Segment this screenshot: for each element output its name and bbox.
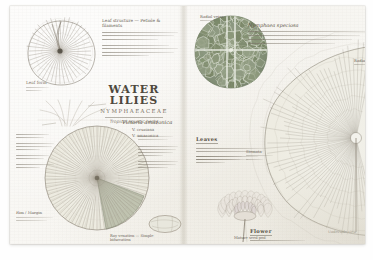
flower-item-0: Sepals (250, 243, 312, 244)
cell-leaf-side-note: Radial veins (200, 14, 224, 23)
leaf-structure-note: Leaf structure — Petiole & filaments (102, 18, 178, 58)
rim-margin-note: Rim / Margin (16, 210, 58, 224)
ray-venation-caption: Ray venation — Simple bifurcation (110, 234, 174, 242)
leaves-subnote (196, 156, 242, 165)
nymphaea-speciosa-heading: Nymphaea speciosa (248, 22, 365, 28)
stomata-note: Stomata (246, 150, 274, 162)
victoria-margin-notes (16, 134, 54, 170)
family-name: NYMPHAEACEAE (86, 108, 182, 114)
leaf-form-caption: Leaf form (26, 80, 52, 93)
note-lines (102, 32, 178, 40)
underside-leaf-drawing (262, 46, 365, 236)
page-gutter (179, 6, 188, 244)
rim-caption: Rim / Margin (16, 210, 58, 215)
victoria-right-notes (138, 136, 178, 170)
seed-pod-drawing (148, 214, 182, 234)
title-rule (105, 117, 163, 118)
leaf-form-drawing (24, 18, 98, 88)
big-leaf-side-note: Radial ribs (354, 58, 365, 67)
journal-photo: Leaf form Leaf structure — Petiole & fil… (0, 0, 373, 260)
big-leaf-bottom-caption: Underside view (328, 230, 364, 234)
leaves-heading: Leaves (196, 136, 218, 144)
leaf-structure-heading: Leaf structure — Petiole & filaments (102, 18, 178, 28)
page-title: WATER LILIES (86, 84, 182, 106)
flower-heading: Flower (250, 228, 272, 236)
notebook-spread: Leaf form Leaf structure — Petiole & fil… (10, 6, 365, 244)
seed-pod-caption: Mature seed pod (234, 236, 296, 240)
flower-note-block: Flower Sepals Petals Stamens (250, 218, 312, 244)
